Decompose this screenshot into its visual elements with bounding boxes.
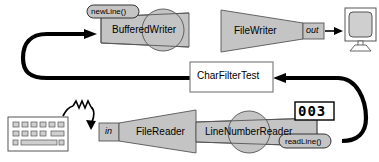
monitor-icon — [345, 8, 376, 51]
port-out[interactable] — [303, 23, 324, 39]
method-pill-readline[interactable] — [279, 134, 331, 148]
method-pill-newline[interactable] — [87, 5, 139, 18]
port-in[interactable] — [99, 123, 119, 141]
keyboard-icon — [8, 117, 68, 151]
diagram-canvas: newLine() BufferedWriter FileWriter out … — [0, 0, 379, 162]
component-filereader[interactable] — [119, 110, 196, 153]
flow-filewriter-to-monitor — [325, 27, 343, 35]
component-filewriter[interactable] — [221, 10, 303, 52]
diagram-svg — [0, 0, 379, 162]
box-charfiltertest[interactable] — [190, 62, 273, 92]
line-number-display — [295, 102, 334, 120]
